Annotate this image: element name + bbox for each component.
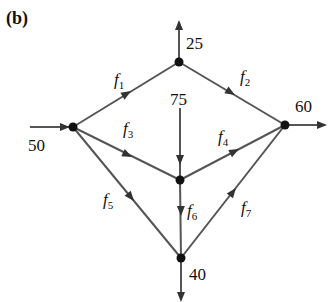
node-d	[281, 121, 290, 130]
label-out-60: 60	[295, 97, 312, 116]
node-e	[177, 254, 186, 263]
arrow-in-75-icon	[176, 155, 184, 165]
node-c	[176, 176, 185, 185]
label-f3: f3	[123, 119, 134, 140]
label-in-75: 75	[170, 90, 187, 109]
arrow-f4-icon	[228, 145, 241, 157]
edge-f6	[180, 180, 181, 258]
arrow-out-25-icon	[175, 20, 183, 30]
label-f2: f2	[240, 67, 250, 88]
label-f6: f6	[187, 201, 198, 222]
panel-label: (b)	[6, 8, 28, 29]
label-out-25: 25	[186, 34, 203, 53]
network-flow-diagram: (b)	[0, 0, 328, 302]
label-f7: f7	[241, 198, 252, 219]
node-b	[175, 58, 184, 67]
arrow-out-40-icon	[177, 292, 185, 302]
label-out-40: 40	[189, 265, 206, 284]
label-in-50: 50	[28, 136, 45, 155]
label-f1: f1	[114, 70, 124, 91]
label-f5: f5	[103, 190, 114, 211]
arrow-f2-icon	[224, 86, 237, 98]
node-a	[69, 123, 78, 132]
arrow-f6-icon	[177, 206, 185, 216]
arrow-out-60-icon	[317, 121, 327, 129]
label-f4: f4	[218, 127, 229, 148]
edge-f5	[73, 127, 181, 258]
